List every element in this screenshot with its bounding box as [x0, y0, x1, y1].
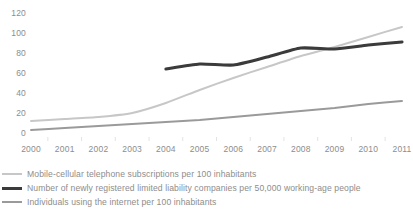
chart-legend: Mobile-cellular telephone subscriptions …: [2, 167, 413, 209]
x-axis-tickmarks: [48, 137, 385, 141]
legend-item-label: Individuals using the internet per 100 i…: [27, 197, 216, 208]
series-line-new-companies: [166, 42, 402, 69]
legend-item-label: Number of newly registered limited liabi…: [27, 183, 361, 194]
x-axis-tick-label: 2008: [291, 144, 311, 154]
y-axis: 120100806040200: [0, 0, 26, 140]
y-axis-tick-label: 100: [0, 29, 26, 38]
y-axis-tick-label: 20: [0, 109, 26, 118]
x-axis-tick-label: 2000: [21, 144, 41, 154]
x-axis-tick-label: 2004: [156, 144, 176, 154]
x-axis-tick-label: 2007: [257, 144, 277, 154]
x-axis-tick-label: 2009: [325, 144, 345, 154]
x-axis-tick-label: 2005: [190, 144, 210, 154]
x-axis-tick-label: 2006: [224, 144, 244, 154]
legend-color-swatch: [2, 173, 22, 175]
y-axis-tick-label: 40: [0, 89, 26, 98]
x-axis-tick-label: 2002: [89, 144, 109, 154]
legend-item-mobile-cellular[interactable]: Mobile-cellular telephone subscriptions …: [2, 167, 413, 181]
legend-color-swatch: [2, 201, 22, 203]
legend-item-internet-users[interactable]: Individuals using the internet per 100 i…: [2, 195, 413, 209]
legend-item-new-companies[interactable]: Number of newly registered limited liabi…: [2, 181, 413, 195]
x-axis-tick-label: 2011: [392, 144, 411, 154]
x-axis-tick-label: 2001: [55, 144, 75, 154]
x-axis: 2000200120022003200420052006200720082009…: [0, 144, 413, 158]
legend-color-swatch: [2, 187, 22, 190]
y-axis-tick-label: 120: [0, 9, 26, 18]
line-chart: 120100806040200 200020012002200320042005…: [0, 0, 413, 211]
series-line-internet-users: [31, 101, 402, 130]
legend-item-label: Mobile-cellular telephone subscriptions …: [27, 169, 256, 180]
y-axis-tick-label: 60: [0, 69, 26, 78]
x-axis-tick-label: 2003: [122, 144, 142, 154]
y-axis-tick-label: 80: [0, 49, 26, 58]
y-axis-tick-label: 0: [0, 129, 26, 138]
x-axis-tick-label: 2010: [358, 144, 378, 154]
